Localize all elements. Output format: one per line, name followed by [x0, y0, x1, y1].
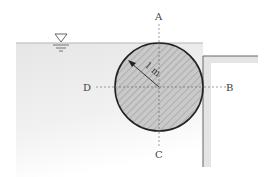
label-d: D	[83, 82, 91, 93]
label-c: C	[155, 149, 163, 160]
cylinder-gate-diagram: 1 m A B C D	[0, 0, 274, 177]
label-b: B	[226, 82, 233, 93]
label-a: A	[154, 11, 163, 22]
wall	[203, 56, 258, 167]
